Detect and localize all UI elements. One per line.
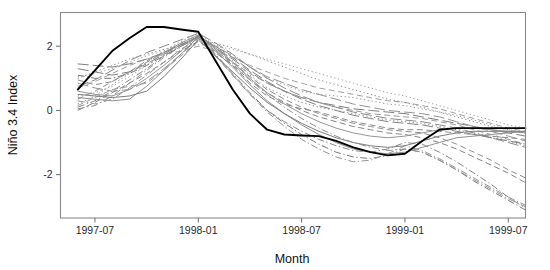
y-tick-label: 2 [47, 40, 53, 52]
x-tick-label: 1998-01 [179, 224, 218, 236]
nino34-ensemble-chart: 1997-071998-011998-071999-011999-07 20-2… [0, 0, 550, 270]
y-tick-label: 0 [47, 104, 53, 116]
chart-svg: 1997-071998-011998-071999-011999-07 20-2… [0, 0, 550, 270]
y-axis-title: Niño 3.4 Index [6, 74, 20, 155]
x-tick-label: 1998-07 [282, 224, 321, 236]
x-tick-label: 1999-07 [489, 224, 528, 236]
x-axis-title: Month [275, 252, 310, 266]
x-tick-label: 1997-07 [76, 224, 115, 236]
x-tick-label: 1999-01 [386, 224, 425, 236]
y-tick-label: -2 [43, 168, 52, 180]
